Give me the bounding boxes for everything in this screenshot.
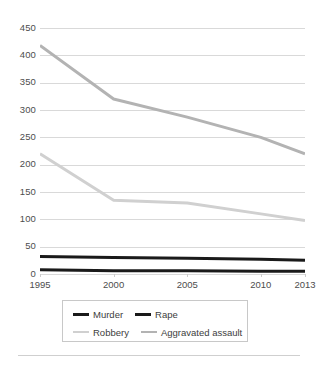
chart-legend: Murder Rape Robbery Aggravated assault (62, 300, 248, 342)
y-tick-label: 350 (2, 76, 36, 87)
legend-label-robbery: Robbery (93, 327, 131, 338)
legend-row-2: Robbery Aggravated assault (63, 323, 247, 341)
legend-label-aggravated-assault: Aggravated assault (161, 327, 244, 338)
x-tick (305, 274, 306, 277)
x-tick-label: 1995 (20, 279, 60, 290)
y-tick-label: 100 (2, 213, 36, 224)
legend-item-aggravated-assault[interactable]: Aggravated assault (131, 327, 244, 338)
legend-item-murder[interactable]: Murder (63, 309, 125, 320)
series-line-aggravated-assault (40, 45, 305, 153)
y-tick-label: 400 (2, 49, 36, 60)
y-tick-label: 250 (2, 131, 36, 142)
legend-swatch-rape (135, 313, 151, 316)
series-line-robbery (40, 154, 305, 221)
legend-label-rape: Rape (155, 309, 180, 320)
series-lines (40, 28, 305, 274)
bottom-divider (18, 355, 300, 356)
x-tick-label: 2010 (241, 279, 281, 290)
chart-figure: 050100150200250300350400450 199520002005… (0, 0, 318, 370)
legend-swatch-robbery (73, 331, 89, 333)
series-line-rape (40, 257, 305, 261)
y-tick-label: 200 (2, 158, 36, 169)
x-tick-label: 2000 (94, 279, 134, 290)
legend-item-rape[interactable]: Rape (125, 309, 180, 320)
y-axis-labels: 050100150200250300350400450 (0, 28, 36, 274)
y-tick-label: 150 (2, 186, 36, 197)
legend-swatch-murder (73, 313, 89, 316)
x-tick-label: 2005 (167, 279, 207, 290)
x-tick (187, 274, 188, 277)
x-tick (40, 274, 41, 277)
legend-item-robbery[interactable]: Robbery (63, 327, 131, 338)
x-tick (114, 274, 115, 277)
legend-swatch-aggravated-assault (141, 331, 157, 333)
x-tick (261, 274, 262, 277)
y-tick-label: 50 (2, 240, 36, 251)
y-tick-label: 300 (2, 104, 36, 115)
y-tick-label: 0 (2, 268, 36, 279)
legend-label-murder: Murder (93, 309, 125, 320)
x-axis: 19952000200520102013 (40, 274, 305, 294)
series-line-murder (40, 270, 305, 272)
y-tick-label: 450 (2, 22, 36, 33)
x-tick-label: 2013 (285, 279, 318, 290)
legend-row-1: Murder Rape (63, 305, 247, 323)
